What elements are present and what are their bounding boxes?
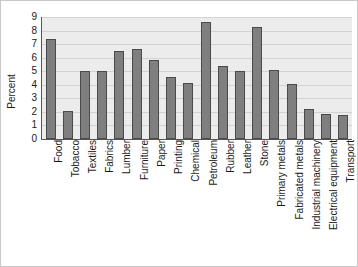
x-axis-tick: Printing [165, 140, 175, 265]
bar [218, 66, 228, 139]
bar-chart: Percent 9876543210 FoodTobaccoTextilesFa… [0, 0, 358, 267]
x-axis-tick: Transport [337, 140, 347, 265]
x-axis-tick: Furniture [131, 140, 141, 265]
y-axis-tick: 7 [21, 39, 37, 49]
bar [132, 49, 142, 139]
bar [97, 71, 107, 139]
x-axis-tick: Fabrics [96, 140, 106, 265]
y-axis-tick: 1 [21, 120, 37, 130]
bar [63, 111, 73, 139]
x-axis-tick: Chemical [182, 140, 192, 265]
plot-area [41, 17, 352, 140]
x-axis-tick: Rubber [217, 140, 227, 265]
bar [46, 39, 56, 139]
x-axis-tick: Primary metals [268, 140, 278, 265]
x-axis-tick: Food [45, 140, 55, 265]
bar [338, 115, 348, 139]
x-axis-tick: Industrial machinery [303, 140, 313, 265]
x-axis-tick: Lumber [113, 140, 123, 265]
bar [149, 60, 159, 139]
x-axis-tick-label: Transport [346, 140, 356, 182]
y-axis-title: Percent [3, 41, 19, 141]
x-axis-tick: Textiles [79, 140, 89, 265]
y-axis-tick: 6 [21, 53, 37, 63]
x-axis-tick-labels: FoodTobaccoTextilesFabricsLumberFurnitur… [41, 140, 351, 265]
bar [166, 77, 176, 139]
bar [201, 22, 211, 139]
bar-series [42, 17, 352, 139]
x-axis-tick: Stone [251, 140, 261, 265]
bar [252, 27, 262, 140]
y-axis-tick: 9 [21, 12, 37, 22]
bar [114, 51, 124, 139]
y-axis-tick: 0 [21, 134, 37, 144]
y-axis-tick: 5 [21, 66, 37, 76]
x-axis-tick: Petroleum [200, 140, 210, 265]
y-axis-tick: 8 [21, 26, 37, 36]
bar [269, 70, 279, 139]
bar [183, 83, 193, 139]
y-axis-tick: 2 [21, 107, 37, 117]
y-axis-tick-labels: 9876543210 [21, 17, 37, 139]
bar [304, 109, 314, 139]
x-axis-tick: Tobacco [62, 140, 72, 265]
x-axis-tick: Paper [148, 140, 158, 265]
y-axis-tick: 3 [21, 93, 37, 103]
x-axis-tick: Electrical equipment [320, 140, 330, 265]
y-axis-title-text: Percent [6, 74, 17, 108]
x-axis-tick: Fabricated metals [286, 140, 296, 265]
bar [80, 71, 90, 139]
bar [287, 84, 297, 139]
y-axis-tick: 4 [21, 80, 37, 90]
bar [321, 114, 331, 139]
x-axis-tick: Leather [234, 140, 244, 265]
bar [235, 71, 245, 139]
